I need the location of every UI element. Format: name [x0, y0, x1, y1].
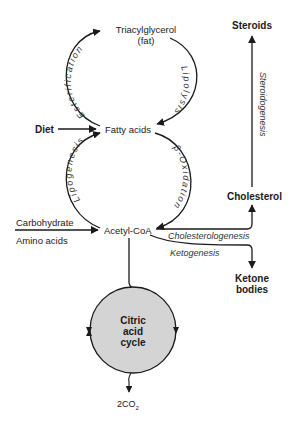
pathway-arrows: Esterification Lipolysis Lipogenesis β-O…	[0, 0, 291, 427]
label-ketogenesis: Ketogenesis	[170, 248, 220, 259]
label-lipogenesis: Lipogenesis	[63, 134, 86, 204]
node-carbohydrate: Carbohydrate	[16, 217, 74, 228]
node-triacylglycerol: Triacylglycerol (fat)	[106, 24, 186, 46]
node-amino-acids: Amino acids	[16, 235, 68, 246]
label-steroidogenesis: Steroidogenesis	[257, 72, 268, 137]
node-cholesterol: Cholesterol	[227, 191, 282, 202]
label-esterification: Esterification	[63, 43, 87, 121]
node-citric-acid-cycle: Citric acid cycle	[108, 315, 158, 348]
node-acetyl-coa: Acetyl-CoA	[104, 225, 152, 236]
label-cholesterologenesis: Cholesterologenesis	[168, 231, 250, 242]
node-steroids: Steroids	[232, 20, 272, 31]
node-co2: 2CO2	[117, 399, 139, 414]
node-fatty-acids: Fatty acids	[105, 124, 151, 135]
to-citric-line	[129, 238, 134, 288]
co2-arrow	[129, 373, 131, 392]
cholesterologenesis-arrow	[156, 205, 252, 229]
svg-text:Esterification: Esterification	[63, 43, 87, 121]
svg-text:Lipolysis: Lipolysis	[172, 64, 192, 117]
svg-text:Lipogenesis: Lipogenesis	[63, 134, 86, 204]
node-diet: Diet	[35, 124, 54, 135]
label-lipolysis: Lipolysis	[172, 64, 192, 117]
node-ketone-bodies: Ketone bodies	[228, 273, 276, 295]
